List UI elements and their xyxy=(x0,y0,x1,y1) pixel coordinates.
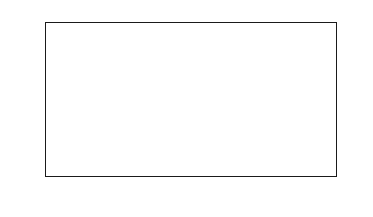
plot-frame xyxy=(45,22,337,177)
scatter-chart xyxy=(0,0,373,217)
